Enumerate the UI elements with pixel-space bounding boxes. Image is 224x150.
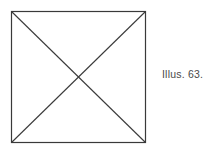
- figure-canvas: [11, 11, 146, 143]
- square-with-diagonals-figure: [11, 11, 146, 143]
- figure-caption: Illus. 63.: [162, 68, 203, 81]
- figure-page: Illus. 63.: [0, 0, 224, 150]
